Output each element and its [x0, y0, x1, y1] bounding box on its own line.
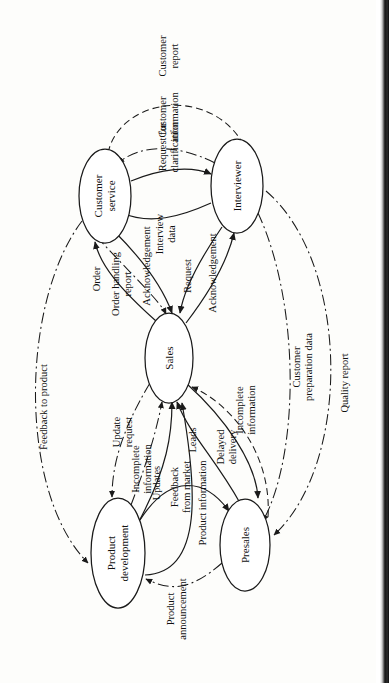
edge-label-updates: Updates — [151, 466, 162, 500]
edge-label-update-request: Update request — [111, 417, 134, 448]
svg-text:Order handling: Order handling — [110, 251, 121, 316]
dfd-canvas: Product development Presales Sales Custo… — [0, 0, 389, 683]
node-label-sales: Sales — [163, 346, 175, 369]
edge-label-product-information: Product information — [197, 460, 208, 546]
svg-text:preparation data: preparation data — [303, 333, 314, 401]
svg-text:Interview: Interview — [154, 213, 165, 254]
node-presales[interactable]: Presales — [220, 499, 270, 591]
svg-text:delivery: delivery — [227, 429, 238, 464]
svg-text:Incomplete: Incomplete — [130, 445, 141, 493]
node-customer-service[interactable]: Customer service — [79, 149, 131, 243]
svg-text:from market: from market — [181, 461, 192, 513]
nodes-layer: Product development Presales Sales Custo… — [79, 139, 270, 608]
svg-text:information: information — [169, 91, 180, 141]
edge-label-customer-report: Customer report — [157, 35, 180, 76]
edge-customer-preparation-data — [258, 213, 290, 521]
diagram-page: Product development Presales Sales Custo… — [0, 0, 389, 683]
edge-label-feedback-from-market: Feedback from market — [169, 461, 192, 513]
edge-label-acknowledgement-iv: Acknowledgement — [207, 233, 218, 312]
node-label-product-development-line2: development — [118, 525, 130, 582]
svg-text:report: report — [169, 43, 180, 68]
edge-label-interview-data: Interview data — [154, 213, 177, 254]
svg-text:Delayed: Delayed — [215, 429, 226, 465]
svg-text:Incomplete: Incomplete — [234, 386, 245, 434]
node-sales[interactable]: Sales — [145, 313, 193, 403]
edge-label-incomplete-information-ps: Incomplete information — [234, 384, 257, 434]
edge-labels-layer: Feedback from market Product announcemen… — [38, 35, 350, 640]
edge-label-acknowledgement-cs: Acknowledgement — [141, 226, 152, 305]
edge-label-feedback-to-product: Feedback to product — [38, 364, 49, 450]
svg-text:information: information — [246, 384, 257, 434]
edge-label-request: Request — [182, 259, 193, 293]
node-label-customer-service-line2: service — [105, 180, 117, 211]
svg-text:request: request — [123, 417, 134, 447]
diagram-rotation-wrapper: Product development Presales Sales Custo… — [0, 0, 389, 683]
svg-text:Customer: Customer — [291, 346, 302, 387]
node-label-customer-service-line1: Customer — [92, 174, 104, 217]
svg-text:announcement: announcement — [177, 578, 188, 639]
edge-label-delayed-delivery: Delayed delivery — [215, 429, 238, 465]
svg-text:Customer: Customer — [157, 96, 168, 137]
svg-text:Feedback: Feedback — [169, 466, 180, 507]
node-interviewer[interactable]: Interviewer — [211, 139, 263, 233]
node-product-development[interactable]: Product development — [91, 498, 145, 608]
svg-text:Update: Update — [111, 417, 122, 448]
node-label-product-development-line1: Product — [105, 536, 117, 570]
edge-label-order-handling-report: Order handling report — [110, 251, 133, 316]
svg-text:data: data — [166, 225, 177, 243]
edge-interview-data — [122, 203, 211, 219]
scan-edge-border — [380, 0, 389, 683]
edge-label-customer-information: Customer information — [157, 91, 180, 141]
edge-label-leads: Leads — [187, 427, 198, 452]
svg-text:Customer: Customer — [157, 35, 168, 76]
edge-label-incomplete-information-pd: Incomplete information — [130, 443, 153, 493]
svg-text:report: report — [122, 271, 133, 296]
edge-label-quality-report: Quality report — [339, 353, 350, 412]
svg-text:Product: Product — [165, 593, 176, 626]
node-label-presales: Presales — [239, 527, 251, 563]
edge-label-order: Order — [91, 266, 102, 291]
node-label-interviewer: Interviewer — [231, 160, 243, 211]
edge-label-customer-preparation-data: Customer preparation data — [291, 333, 314, 401]
edge-label-product-announcement: Product announcement — [165, 578, 188, 639]
